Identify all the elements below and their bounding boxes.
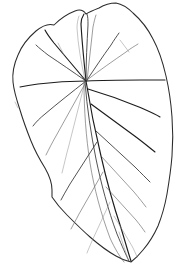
leaf-illustration-canvas: [0, 0, 184, 272]
leaf-drawing-figure: Leaf outline drawing cordate leaf ink li…: [0, 0, 184, 272]
